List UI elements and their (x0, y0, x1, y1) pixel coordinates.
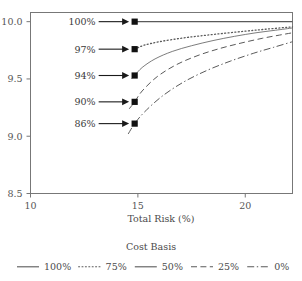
y-axis-ticks: 8.59.09.510.0 (1, 16, 30, 199)
y-tick-label: 10.0 (1, 16, 22, 27)
y-tick-label: 9.0 (7, 131, 22, 142)
data-marker (132, 19, 138, 25)
legend-label-25pct: 25% (218, 261, 239, 272)
legend-title: Cost Basis (126, 241, 176, 252)
legend-label-0pct: 0% (274, 261, 289, 272)
chart-canvas: 8.59.09.510.0 101520 100%97%94%90%86% To… (0, 0, 302, 281)
data-marker (132, 46, 138, 52)
series-line-0pct (128, 42, 292, 134)
legend-label-75pct: 75% (106, 261, 127, 272)
annotation-arrow-head (122, 72, 129, 79)
x-tick-label: 10 (24, 200, 36, 211)
x-axis-ticks: 101520 (24, 194, 251, 211)
series-line-50pct (131, 28, 292, 79)
series-line-75pct (135, 27, 293, 49)
data-curves (128, 22, 292, 134)
annotation-label: 97% (75, 44, 96, 55)
x-tick-label: 15 (132, 200, 144, 211)
annotation-arrow-head (122, 46, 129, 53)
legend-label-50pct: 50% (162, 261, 183, 272)
series-line-25pct (129, 33, 292, 109)
annotation-arrow-head (122, 98, 129, 105)
y-tick-label: 9.5 (7, 73, 22, 84)
annotation-arrow-head (122, 18, 129, 25)
annotation-arrow-head (122, 120, 129, 127)
data-marker (132, 72, 138, 78)
annotation-label: 86% (75, 118, 96, 129)
y-tick-label: 8.5 (7, 188, 22, 199)
legend-label-100pct: 100% (44, 261, 71, 272)
data-marker (132, 121, 138, 127)
annotation-label: 90% (75, 96, 96, 107)
annotation-label: 94% (75, 70, 96, 81)
x-axis-title: Total Risk (%) (127, 213, 194, 224)
chart-figure: 8.59.09.510.0 101520 100%97%94%90%86% To… (0, 0, 302, 281)
plot-frame (31, 13, 293, 194)
data-marker (132, 99, 138, 105)
annotation-label: 100% (68, 16, 95, 27)
x-tick-label: 20 (239, 200, 251, 211)
annotation-group: 100%97%94%90%86% (68, 16, 137, 129)
legend-items: 100%75%50%25%0% (17, 261, 289, 272)
